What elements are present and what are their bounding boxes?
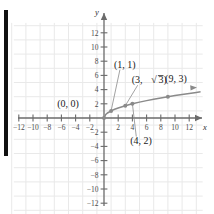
- data-point-p3: [123, 104, 127, 108]
- svg-text:√: √: [151, 74, 157, 85]
- point-label-p1: (1, 1): [114, 59, 136, 71]
- point-labels: (0, 0)(1, 1)(3, √3)(4, 2)(9, 3): [57, 59, 187, 147]
- y-tick-label: −6: [91, 156, 99, 165]
- data-point-p4: [130, 102, 134, 106]
- x-tick-label: 6: [145, 123, 149, 132]
- curve-path: [104, 92, 201, 118]
- coordinate-graph-figure: −12−10−8−6−4−22468101212108642−2−4−6−8−1…: [0, 0, 214, 214]
- svg-text:(3,: (3,: [132, 74, 143, 86]
- point-label-p9: (9, 3): [165, 73, 187, 85]
- x-tick-label: −12: [13, 123, 25, 132]
- data-point-p9: [166, 95, 170, 99]
- y-tick-label: −10: [87, 185, 99, 194]
- x-axis-arrow: [195, 115, 202, 121]
- y-tick-label: −8: [91, 171, 99, 180]
- x-tick-label: 2: [116, 123, 120, 132]
- point-label-p3: (3, √3): [132, 74, 167, 86]
- x-tick-label: 4: [131, 123, 135, 132]
- y-tick-label: 6: [95, 71, 99, 80]
- x-tick-label: 12: [185, 123, 193, 132]
- y-tick-label: 2: [95, 100, 99, 109]
- y-tick-label: −12: [87, 199, 99, 208]
- y-tick-label: 8: [95, 57, 99, 66]
- y-axis-label: y: [94, 7, 99, 17]
- x-tick-label: −10: [27, 123, 39, 132]
- y-tick-label: 10: [91, 43, 99, 52]
- data-point-p1: [109, 109, 113, 113]
- y-tick-label: −2: [91, 128, 99, 137]
- x-axis-label: x: [202, 122, 207, 132]
- x-tick-label: −6: [57, 123, 65, 132]
- data-point-origin: [102, 116, 106, 120]
- plot-canvas: −12−10−8−6−4−22468101212108642−2−4−6−8−1…: [0, 0, 214, 214]
- point-label-p4: (4, 2): [130, 135, 152, 147]
- leader-line-p1: [111, 70, 120, 111]
- y-tick-label: −4: [91, 142, 99, 151]
- sqrt-curve: [104, 85, 201, 118]
- y-tick-label: 4: [95, 85, 99, 94]
- y-tick-label: 12: [91, 29, 99, 38]
- x-tick-label: −8: [43, 123, 51, 132]
- y-axis-arrow: [101, 13, 107, 20]
- x-tick-label: 10: [171, 123, 179, 132]
- point-label-origin: (0, 0): [57, 98, 79, 110]
- x-tick-label: −4: [72, 123, 80, 132]
- x-tick-label: 8: [159, 123, 163, 132]
